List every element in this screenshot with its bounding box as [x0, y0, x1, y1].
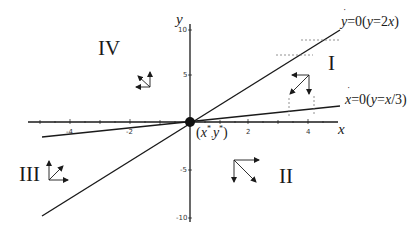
nullcline-y-dot-label: y˙=0(y=2x): [341, 15, 399, 29]
nullcline-eq: =: [377, 92, 385, 107]
region-label-iii: III: [19, 164, 40, 185]
nullcline-x-dot-label: x˙=0(y=x/3): [345, 93, 407, 107]
equilibrium-point: [185, 117, 195, 127]
nullcline-text: =0(: [351, 92, 371, 107]
x-tick-label: 4: [306, 129, 310, 136]
direction-arrows-region-iii: [49, 161, 68, 180]
y-tick-label: -10: [176, 215, 187, 222]
x-tick-label: 2: [246, 129, 250, 136]
nullcline-close: ): [394, 14, 399, 29]
region-label-iv: IV: [98, 38, 120, 59]
eq-close: ): [223, 125, 228, 140]
equilibrium-label: (x*,y*): [196, 125, 228, 140]
phase-plane-diagram: [0, 0, 415, 234]
y-tick-label: 5: [183, 72, 187, 79]
nullcline-eq: =2: [373, 14, 388, 29]
y-tick-label: 10: [178, 27, 187, 34]
region-label-ii: II: [279, 166, 293, 187]
x-tick-label: -2: [126, 129, 133, 136]
nullcline-frac: /3): [391, 92, 407, 107]
x-tick-label: -4: [66, 129, 73, 136]
direction-arrows-region-iv: [136, 72, 150, 87]
region-label-i: I: [328, 53, 335, 74]
x-axis: [28, 119, 338, 124]
nullcline-text: =0(: [347, 14, 367, 29]
y-axis-label: y: [176, 12, 183, 27]
y-tick-label: -5: [180, 167, 187, 174]
x-axis-label: x: [338, 122, 345, 137]
direction-arrows-region-ii: [234, 160, 259, 182]
direction-arrows-region-i: [290, 75, 309, 94]
